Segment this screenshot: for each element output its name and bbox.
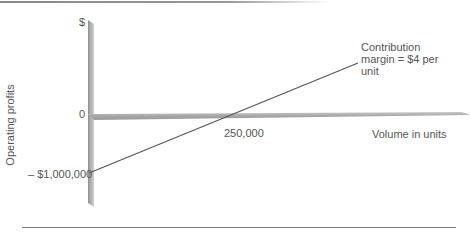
annotation-line-1: Contribution bbox=[361, 41, 438, 53]
y-tick-negative: – $1,000,000 bbox=[28, 168, 92, 180]
bottom-rule bbox=[22, 227, 456, 228]
x-axis-title: Volume in units bbox=[372, 128, 447, 140]
y-axis-currency-label: $ bbox=[79, 16, 85, 28]
chart-plot bbox=[0, 0, 470, 236]
annotation-line-2: margin = $4 per bbox=[361, 53, 438, 65]
x-axis bbox=[88, 112, 470, 120]
contribution-margin-annotation: Contribution margin = $4 per unit bbox=[361, 41, 438, 77]
annotation-line-3: unit bbox=[361, 65, 438, 77]
y-tick-zero: 0 bbox=[79, 108, 85, 120]
x-tick-250000: 250,000 bbox=[224, 127, 264, 139]
y-axis-title: Operating profits bbox=[4, 84, 16, 165]
